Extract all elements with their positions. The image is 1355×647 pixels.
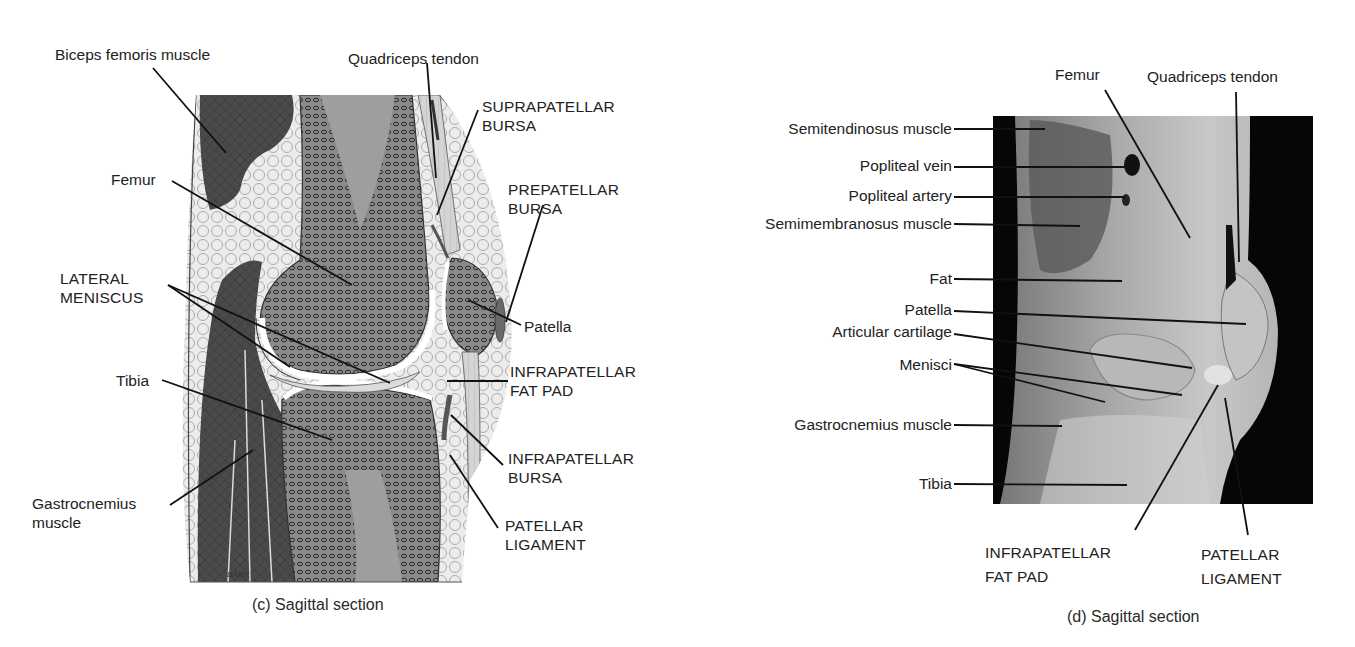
label-tibia-d: Tibia [919, 475, 952, 493]
label-femur-c: Femur [111, 171, 156, 189]
label-articular-cartilage: Articular cartilage [832, 323, 952, 341]
label-patella-d: Patella [905, 301, 952, 319]
artist-signature: DANK [227, 566, 249, 584]
label-infrapatellar-fat-pad-d: INFRAPATELLAR FAT PAD [985, 541, 1111, 589]
label-popliteal-artery: Popliteal artery [849, 187, 952, 205]
label-semimembranosus: Semimembranosus muscle [765, 215, 952, 233]
label-patellar-ligament-d: PATELLAR LIGAMENT [1201, 543, 1282, 591]
caption-c: (c) Sagittal section [252, 596, 384, 614]
label-patellar-ligament-c: PATELLAR LIGAMENT [505, 516, 586, 554]
label-femur-d: Femur [1055, 66, 1100, 84]
label-infrapatellar-bursa: INFRAPATELLAR BURSA [508, 449, 634, 487]
label-gastrocnemius-c: Gastrocnemius muscle [32, 494, 136, 532]
label-lateral-meniscus: LATERAL MENISCUS [60, 269, 143, 307]
knee-illustration-sagittal [0, 0, 1355, 647]
label-patella-c: Patella [524, 318, 571, 336]
label-tibia-c: Tibia [116, 372, 149, 390]
label-prepatellar-bursa: PREPATELLAR BURSA [508, 180, 619, 218]
label-quadriceps-tendon-d: Quadriceps tendon [1147, 68, 1278, 86]
label-menisci: Menisci [899, 356, 952, 374]
label-quadriceps-tendon-c: Quadriceps tendon [348, 50, 479, 68]
label-biceps-femoris: Biceps femoris muscle [55, 46, 210, 64]
label-infrapatellar-fat-pad-c: INFRAPATELLAR FAT PAD [510, 362, 636, 400]
label-semitendinosus: Semitendinosus muscle [788, 120, 952, 138]
caption-d: (d) Sagittal section [1067, 608, 1200, 626]
label-popliteal-vein: Popliteal vein [860, 157, 952, 175]
label-fat: Fat [930, 270, 952, 288]
label-gastrocnemius-d: Gastrocnemius muscle [794, 416, 952, 434]
label-suprapatellar-bursa: SUPRAPATELLAR BURSA [482, 97, 615, 135]
